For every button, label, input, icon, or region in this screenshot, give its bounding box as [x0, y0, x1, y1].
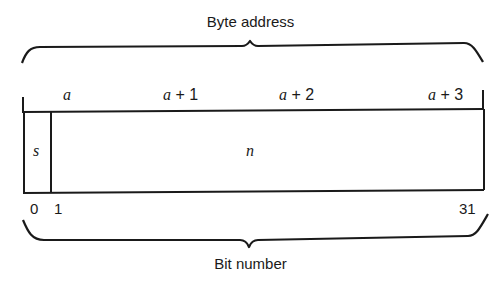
bottom-brace [23, 214, 488, 247]
box-top [23, 109, 483, 112]
box-bottom [23, 190, 484, 193]
field-magnitude: n [246, 142, 254, 160]
bit-number-label: Bit number [0, 255, 501, 272]
bit-number-1: 1 [54, 200, 62, 217]
byte-address-a0: a [63, 86, 71, 104]
bit-number-0: 0 [30, 200, 38, 217]
bit-number-31: 31 [459, 200, 476, 217]
byte-address-a2: a + 2 [279, 86, 314, 104]
byte-address-label: Byte address [0, 13, 501, 30]
byte-address-a1: a + 1 [163, 86, 198, 104]
word-format-diagram: Byte address a a + 1 a + 2 a + 3 s n 0 1… [0, 0, 501, 285]
field-sign: s [33, 142, 39, 160]
byte-address-a3: a + 3 [428, 86, 463, 104]
top-brace [22, 41, 483, 63]
